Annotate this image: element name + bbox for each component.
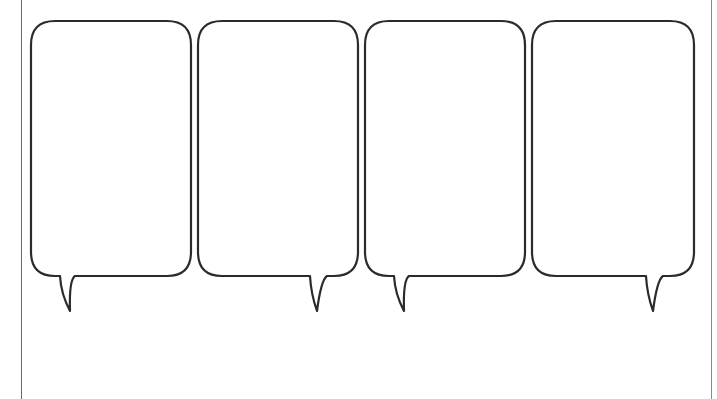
- speech-bubble-outline: [31, 21, 191, 311]
- speech-bubble: [532, 21, 694, 311]
- speech-bubble: [31, 21, 191, 311]
- speech-bubble-outline: [198, 21, 358, 311]
- speech-bubble: [198, 21, 358, 311]
- speech-bubble: [365, 21, 525, 311]
- speech-bubble-panel: [0, 0, 717, 399]
- speech-bubble-outline: [532, 21, 694, 311]
- speech-bubble-outline: [365, 21, 525, 311]
